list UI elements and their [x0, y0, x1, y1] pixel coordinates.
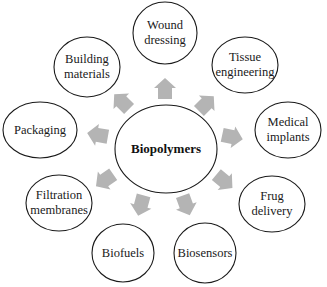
node-label-line: Filtration	[30, 188, 88, 203]
node-label-packaging: Packaging	[14, 123, 66, 138]
node-label-line: Tissue	[215, 50, 274, 65]
block-arrow-icon	[172, 192, 200, 219]
arrow-to-building-materials	[106, 86, 136, 116]
block-arrow-icon	[220, 124, 245, 150]
arrow-to-biosensors	[172, 192, 200, 219]
node-label-line: Wound	[144, 18, 186, 33]
arrow-to-packaging	[85, 122, 110, 147]
node-label-frug-delivery: Frugdelivery	[252, 189, 293, 219]
node-label-line: membranes	[30, 203, 88, 218]
node-label-line: Frug	[252, 189, 293, 204]
block-arrow-icon	[154, 78, 176, 99]
block-arrow-icon	[209, 166, 239, 196]
arrow-to-tissue-engineering	[191, 88, 221, 118]
node-label-line: Biofuels	[102, 246, 144, 261]
block-arrow-icon	[191, 88, 221, 118]
node-label-biofuels: Biofuels	[102, 246, 144, 261]
block-arrow-icon	[106, 86, 136, 116]
arrow-to-wound-dressing	[154, 78, 176, 99]
biopolymers-diagram: Biopolymers WounddressingTissueengineeri…	[0, 0, 327, 287]
node-label-line: Medical	[266, 115, 309, 130]
arrow-to-filtration-membranes	[90, 165, 120, 195]
node-label-line: dressing	[144, 33, 186, 48]
block-arrow-icon	[90, 165, 120, 195]
arrow-to-frug-delivery	[209, 166, 239, 196]
node-label-line: engineering	[215, 65, 274, 80]
arrow-to-biofuels	[128, 192, 155, 218]
node-label-medical-implants: Medicalimplants	[266, 115, 309, 145]
node-label-line: delivery	[252, 204, 293, 219]
node-label-building-materials: Buildingmaterials	[64, 52, 110, 82]
node-label-line: Packaging	[14, 123, 66, 138]
node-label-line: Building	[64, 52, 110, 67]
node-label-biosensors: Biosensors	[178, 246, 233, 261]
block-arrow-icon	[128, 192, 155, 218]
block-arrow-icon	[85, 122, 110, 147]
arrow-to-medical-implants	[220, 124, 245, 150]
node-label-line: materials	[64, 67, 110, 82]
node-label-wound-dressing: Wounddressing	[144, 18, 186, 48]
node-label-line: Biosensors	[178, 246, 233, 261]
node-label-line: implants	[266, 130, 309, 145]
center-node-label: Biopolymers	[131, 141, 201, 157]
node-label-tissue-engineering: Tissueengineering	[215, 50, 274, 80]
node-label-filtration-membranes: Filtrationmembranes	[30, 188, 88, 218]
